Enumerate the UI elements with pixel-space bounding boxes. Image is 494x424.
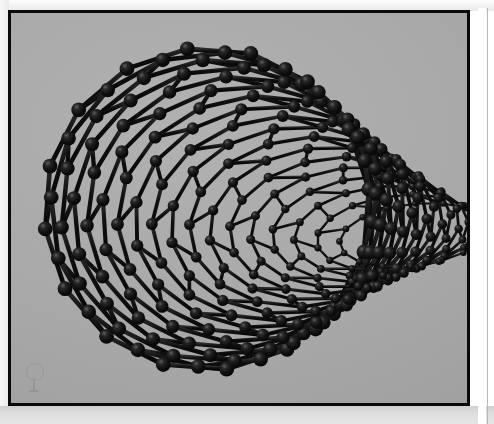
carbon-atom (396, 182, 408, 194)
bond (136, 202, 137, 245)
carbon-atom (261, 156, 271, 166)
carbon-atom (202, 323, 215, 336)
carbon-atom (438, 219, 448, 229)
carbon-atom (124, 93, 138, 107)
carbon-atom (99, 329, 114, 344)
carbon-atom (156, 257, 168, 269)
bond (211, 86, 268, 90)
page-rule-right (487, 8, 488, 424)
carbon-atom (44, 190, 59, 205)
carbon-atom (237, 195, 247, 205)
bond (330, 206, 352, 219)
nanotube-model-illustration (11, 13, 467, 403)
carbon-atom (131, 239, 143, 251)
carbon-atom (348, 265, 355, 272)
bond (136, 161, 156, 202)
carbon-atom (314, 244, 321, 251)
carbon-atom (100, 297, 114, 311)
carbon-atom (88, 166, 102, 180)
carbon-atom (132, 311, 146, 325)
carbon-atom (301, 95, 314, 108)
page-margin-right (478, 8, 486, 424)
page-root: Ball-and-stick molecular model of a sing… (0, 0, 494, 424)
carbon-atom (410, 246, 421, 257)
carbon-atom (343, 294, 354, 305)
carbon-atom (67, 191, 81, 205)
bond (317, 278, 351, 282)
carbon-atom (217, 295, 228, 306)
carbon-atom (112, 322, 126, 336)
carbon-atom (251, 211, 260, 220)
carbon-atom (219, 263, 229, 273)
carbon-atom (281, 205, 290, 214)
carbon-atom (146, 332, 160, 346)
carbon-atom (81, 305, 96, 320)
bond (306, 168, 344, 177)
carbon-atom (196, 53, 210, 67)
carbon-atom (270, 245, 279, 254)
carbon-atom (146, 218, 158, 230)
carbon-atom (195, 186, 206, 197)
carbon-atom (71, 102, 86, 117)
carbon-atom (184, 270, 195, 281)
carbon-atom (459, 236, 467, 244)
carbon-atom (149, 131, 162, 144)
carbon-atom (264, 173, 274, 183)
carbon-atom (246, 235, 255, 244)
carbon-atom (303, 143, 313, 153)
carbon-atom (55, 220, 69, 234)
bond (242, 178, 268, 200)
carbon-atom (327, 215, 334, 222)
carbon-atom (381, 172, 394, 185)
carbon-atom (278, 62, 293, 77)
carbon-atom (380, 155, 393, 168)
bond (268, 137, 314, 145)
bond (275, 177, 306, 194)
carbon-atom (190, 307, 202, 319)
carbon-atom (73, 276, 87, 290)
carbon-atom (281, 284, 291, 294)
carbon-atom (396, 247, 408, 259)
carbon-atom (296, 218, 304, 226)
carbon-atom (297, 302, 308, 313)
carbon-atom (182, 336, 196, 350)
carbon-atom (38, 221, 53, 236)
carbon-atom (191, 252, 202, 263)
carbon-atom (288, 100, 300, 112)
carbon-atom (407, 263, 414, 270)
carbon-atom (163, 85, 177, 99)
carbon-atom (120, 61, 135, 76)
bond (268, 177, 305, 178)
carbon-atom (342, 189, 350, 197)
carbon-atom (219, 362, 234, 377)
carbon-atom (235, 103, 247, 115)
carbon-atom (379, 272, 387, 280)
bond (274, 127, 323, 129)
carbon-atom (58, 281, 73, 296)
bond (267, 311, 316, 313)
carbon-atom (223, 139, 234, 150)
carbon-atom (281, 273, 290, 282)
bond (162, 150, 190, 184)
carbon-atom (314, 229, 321, 236)
carbon-atom (276, 331, 289, 344)
bond (305, 157, 346, 163)
carbon-atom (275, 315, 287, 327)
carbon-atom (153, 107, 166, 120)
carbon-atom (415, 181, 426, 192)
carbon-atom (257, 58, 271, 72)
carbon-atom (223, 158, 234, 169)
carbon-atom (229, 248, 239, 258)
carbon-atom (314, 202, 322, 210)
carbon-atom (331, 293, 341, 303)
carbon-atom (263, 342, 277, 356)
carbon-atom (227, 120, 239, 132)
carbon-atom (436, 258, 443, 265)
carbon-atom (252, 296, 263, 307)
carbon-atom (397, 168, 409, 180)
carbon-atom (120, 172, 133, 185)
carbon-atom (208, 205, 218, 215)
carbon-atom (379, 193, 393, 207)
carbon-atom (184, 219, 195, 230)
carbon-atom (150, 155, 162, 167)
